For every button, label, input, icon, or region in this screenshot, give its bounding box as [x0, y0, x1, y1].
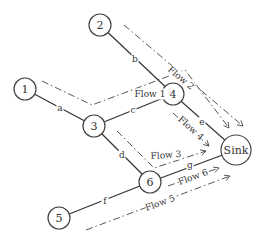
- flow-label-flow1: Flow 1: [135, 89, 166, 99]
- node-2: 2: [89, 14, 111, 36]
- edge-label-a: a: [57, 103, 63, 113]
- flow-label-group-flow1: Flow 1: [135, 89, 166, 100]
- flow-label-group-flow3: Flow 3: [150, 148, 182, 161]
- edge-label-b: b: [132, 54, 138, 64]
- edge-label-g: g: [187, 160, 193, 170]
- node-1: 1: [14, 78, 36, 100]
- flows-layer: [42, 25, 243, 230]
- node-label-3: 3: [91, 120, 98, 133]
- edge-label-e: e: [199, 117, 204, 127]
- node-6: 6: [139, 171, 161, 193]
- flow-label-flow5: Flow 5: [144, 193, 177, 213]
- node-label-4: 4: [170, 88, 177, 101]
- node-label-2: 2: [97, 19, 104, 32]
- node-label-1: 1: [22, 83, 29, 96]
- flow-label-group-flow5: Flow 5: [144, 192, 177, 213]
- node-3: 3: [83, 115, 105, 137]
- edge-label-d: d: [119, 150, 125, 160]
- node-5: 5: [48, 207, 70, 229]
- node-label-sink: Sink: [224, 144, 249, 157]
- nodes-layer: 123456Sink: [14, 14, 251, 229]
- node-sink: Sink: [221, 135, 251, 165]
- network-flow-diagram: 123456Sink abcdefgFlow 1Flow 2Flow 3Flow…: [0, 0, 265, 244]
- edge-label-c: c: [130, 105, 135, 115]
- node-label-5: 5: [56, 212, 63, 225]
- node-label-6: 6: [147, 176, 154, 189]
- labels-layer: abcdefgFlow 1Flow 2Flow 3Flow 4Flow 5Flo…: [57, 54, 210, 213]
